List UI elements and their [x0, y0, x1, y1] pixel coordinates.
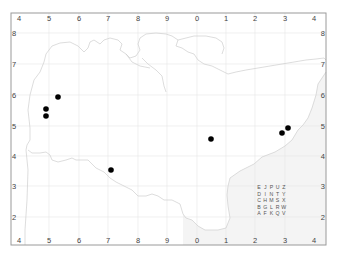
x-tick-label-bottom: 9	[165, 236, 169, 245]
grid-letter: W	[281, 204, 286, 210]
y-tick-label-left: 4	[12, 152, 16, 161]
x-tick-label-top: 8	[136, 14, 140, 23]
distribution-map: 445566778899001122334488776655443322 EJP…	[0, 0, 337, 254]
grid-letter: B	[257, 204, 261, 210]
x-tick-label-top: 4	[312, 14, 316, 23]
y-tick-label-left: 6	[12, 91, 16, 100]
grid-letter: Y	[282, 191, 286, 197]
grid-letter: X	[282, 197, 286, 203]
map-canvas: 445566778899001122334488776655443322 EJP…	[0, 0, 337, 254]
grid-letter: U	[276, 184, 280, 190]
x-tick-label-bottom: 1	[224, 236, 228, 245]
y-tick-label-right: 3	[321, 182, 325, 191]
y-tick-label-right: 2	[321, 213, 325, 222]
grid-letter: Z	[282, 184, 285, 190]
y-tick-label-right: 4	[321, 152, 325, 161]
record-dot	[208, 136, 214, 142]
grid-letter: R	[276, 204, 280, 210]
y-tick-label-right: 7	[321, 60, 325, 69]
grid-letter: G	[263, 204, 267, 210]
x-tick-label-bottom: 3	[283, 236, 287, 245]
x-tick-label-top: 7	[106, 14, 110, 23]
y-tick-label-right: 8	[321, 29, 325, 38]
grid-letter: Q	[276, 210, 280, 216]
x-tick-label-bottom: 2	[253, 236, 257, 245]
x-tick-label-top: 2	[253, 14, 257, 23]
y-tick-label-left: 5	[12, 122, 16, 131]
grid-letter: F	[264, 210, 267, 216]
x-tick-label-top: 1	[224, 14, 228, 23]
y-tick-label-left: 3	[12, 182, 16, 191]
x-tick-label-top: 5	[47, 14, 51, 23]
grid-letter: J	[264, 184, 267, 190]
y-tick-label-left: 7	[12, 60, 16, 69]
record-dot	[43, 106, 49, 112]
x-tick-label-top: 3	[283, 14, 287, 23]
grid-letter: E	[257, 184, 261, 190]
x-tick-label-bottom: 4	[312, 236, 316, 245]
x-tick-label-bottom: 6	[77, 236, 81, 245]
x-tick-label-top: 6	[77, 14, 81, 23]
x-tick-label-bottom: 0	[195, 236, 199, 245]
grid-letter: V	[282, 210, 286, 216]
x-tick-label-top: 4	[17, 14, 21, 23]
grid-letter: H	[263, 197, 267, 203]
grid-letter: N	[270, 191, 274, 197]
x-tick-label-bottom: 5	[47, 236, 51, 245]
grid-letter: C	[257, 197, 261, 203]
y-tick-label-left: 8	[12, 29, 16, 38]
x-tick-label-top: 0	[195, 14, 199, 23]
record-dot	[108, 167, 114, 173]
record-dot	[43, 113, 49, 119]
grid-letter: S	[276, 197, 280, 203]
grid-letter: K	[270, 210, 274, 216]
record-dot	[279, 130, 285, 136]
grid-letter: M	[269, 197, 273, 203]
x-tick-label-bottom: 7	[106, 236, 110, 245]
x-tick-label-top: 9	[165, 14, 169, 23]
grid-letter: D	[257, 191, 261, 197]
record-dot	[55, 94, 61, 100]
y-tick-label-left: 2	[12, 213, 16, 222]
y-tick-label-right: 6	[321, 91, 325, 100]
record-dot	[285, 125, 291, 131]
grid-letter: L	[270, 204, 273, 210]
x-tick-label-bottom: 8	[136, 236, 140, 245]
sea-area	[183, 72, 326, 245]
grid-letter: P	[270, 184, 274, 190]
y-tick-label-right: 5	[321, 122, 325, 131]
grid-letter: I	[264, 191, 265, 197]
x-tick-label-bottom: 4	[17, 236, 21, 245]
grid-letter: A	[257, 210, 261, 216]
